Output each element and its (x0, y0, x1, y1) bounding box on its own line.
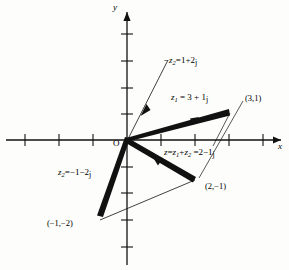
z2-rhs: −1−2 (70, 167, 89, 177)
sum-imaginary-unit: j (213, 150, 215, 159)
origin-label: O (113, 139, 120, 148)
point-label-sum: (2,−1) (205, 182, 226, 191)
neg-z2-vector-line (128, 60, 168, 139)
neg-z2-arrowhead (141, 104, 151, 116)
sum-equation-label: z=z1+z2 =2−1j (164, 148, 215, 157)
neg-z2-imaginary-unit: j (195, 58, 197, 67)
z2-imaginary-unit: j (89, 170, 91, 179)
neg-z2-rhs: 1+2 (181, 55, 195, 65)
z1-imaginary-unit: j (206, 95, 208, 104)
z1-equation-label: z1 = 3 + 1j (171, 93, 208, 102)
z2-lhs: z (58, 167, 62, 177)
neg-z2-lhs: −z (163, 55, 173, 65)
z1-lhs: z (171, 92, 175, 102)
z1-rhs: 3 + 1 (187, 92, 206, 102)
sum-term1-subscript: 1 (176, 151, 179, 158)
point-label-z1: (3,1) (245, 94, 261, 103)
complex-plane-figure: y x O −z2=1+2j z1 = 3 + 1j (3,1) z=z1+z2… (0, 0, 289, 270)
z1-equals: = (180, 92, 185, 102)
parallelogram-side-line (100, 180, 195, 220)
sum-rhs: 2−1 (199, 147, 213, 157)
point-label-z2: (−1,−2) (47, 219, 73, 228)
z2-equation-label: z2=−1−2j (58, 168, 91, 177)
neg-z2-equation-label: −z2=1+2j (163, 56, 197, 65)
x-axis-label: x (278, 142, 282, 151)
z2-vector (97, 137, 130, 217)
z1-subscript: 1 (175, 96, 178, 103)
y-axis-arrowhead (123, 12, 130, 21)
sum-term2-subscript: 2 (188, 151, 191, 158)
neg-z2-subscript: 2 (173, 59, 176, 66)
y-axis-label: y (113, 3, 117, 12)
vector-diagram-canvas (0, 0, 289, 270)
z2-subscript: 2 (62, 171, 65, 178)
